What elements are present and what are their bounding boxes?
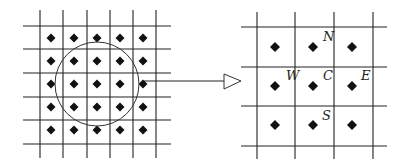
- label-center: C: [323, 68, 333, 83]
- grid-point: [116, 126, 125, 135]
- grid-point: [70, 57, 79, 66]
- grid-point: [347, 42, 357, 52]
- grid-point: [70, 80, 79, 89]
- grid-point: [47, 80, 56, 89]
- grid-point: [70, 126, 79, 135]
- grid-point: [93, 34, 102, 43]
- grid-point: [47, 34, 56, 43]
- grid-point: [47, 57, 56, 66]
- arrow: [142, 74, 241, 89]
- grid-point: [308, 42, 318, 52]
- grid-point: [93, 80, 102, 89]
- grid-point: [270, 120, 280, 130]
- label-north: N: [322, 29, 335, 44]
- left-grid: [23, 10, 171, 158]
- grid-point: [47, 103, 56, 112]
- grid-point: [47, 126, 56, 135]
- grid-point: [116, 57, 125, 66]
- grid-point: [308, 81, 318, 91]
- label-east: E: [360, 68, 371, 83]
- grid-point: [347, 81, 357, 91]
- label-south: S: [322, 108, 331, 123]
- grid-point: [93, 126, 102, 135]
- grid-point: [70, 34, 79, 43]
- stencil-diagram: NWCES: [0, 0, 403, 168]
- grid-point: [308, 120, 318, 130]
- stencil-labels: NWCES: [286, 29, 371, 123]
- arrow-head-icon: [224, 74, 241, 89]
- grid-point: [270, 42, 280, 52]
- grid-point: [139, 103, 148, 112]
- grid-point: [116, 34, 125, 43]
- grid-point: [139, 34, 148, 43]
- right-grid: [241, 12, 387, 159]
- grid-point: [116, 103, 125, 112]
- grid-point: [139, 57, 148, 66]
- grid-point: [270, 81, 280, 91]
- grid-point: [116, 80, 125, 89]
- grid-point: [347, 120, 357, 130]
- grid-point: [139, 126, 148, 135]
- grid-point: [93, 57, 102, 66]
- grid-point: [70, 103, 79, 112]
- label-west: W: [286, 68, 301, 83]
- grid-point: [93, 103, 102, 112]
